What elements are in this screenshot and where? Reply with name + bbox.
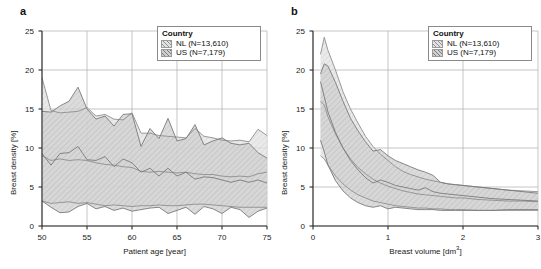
legend-title: Country bbox=[433, 29, 527, 38]
legend-entry-nl: NL (N=13,610) bbox=[161, 39, 256, 48]
legend-swatch-us-icon bbox=[161, 49, 172, 57]
legend-title: Country bbox=[162, 29, 256, 38]
legend-swatch-us-icon bbox=[432, 49, 443, 57]
panel-b-legend: Country NL (N=13,610) US (N=7,179) bbox=[428, 26, 532, 61]
legend-label-nl: NL (N=13,610) bbox=[447, 39, 499, 48]
panel-b: b Breast density [%] Breast volume [dm3]… bbox=[271, 0, 541, 269]
legend-label-us: US (N=7,179) bbox=[447, 48, 496, 57]
legend-swatch-nl-icon bbox=[432, 40, 443, 48]
panel-a: a Breast density [%] Patient age [year] … bbox=[0, 0, 270, 269]
figure-container: a Breast density [%] Patient age [year] … bbox=[0, 0, 541, 269]
legend-entry-nl: NL (N=13,610) bbox=[432, 39, 527, 48]
legend-label-nl: NL (N=13,610) bbox=[176, 39, 228, 48]
legend-label-us: US (N=7,179) bbox=[176, 48, 225, 57]
legend-entry-us: US (N=7,179) bbox=[161, 48, 256, 57]
legend-entry-us: US (N=7,179) bbox=[432, 48, 527, 57]
legend-swatch-nl-icon bbox=[161, 40, 172, 48]
panel-a-legend: Country NL (N=13,610) US (N=7,179) bbox=[157, 26, 261, 61]
